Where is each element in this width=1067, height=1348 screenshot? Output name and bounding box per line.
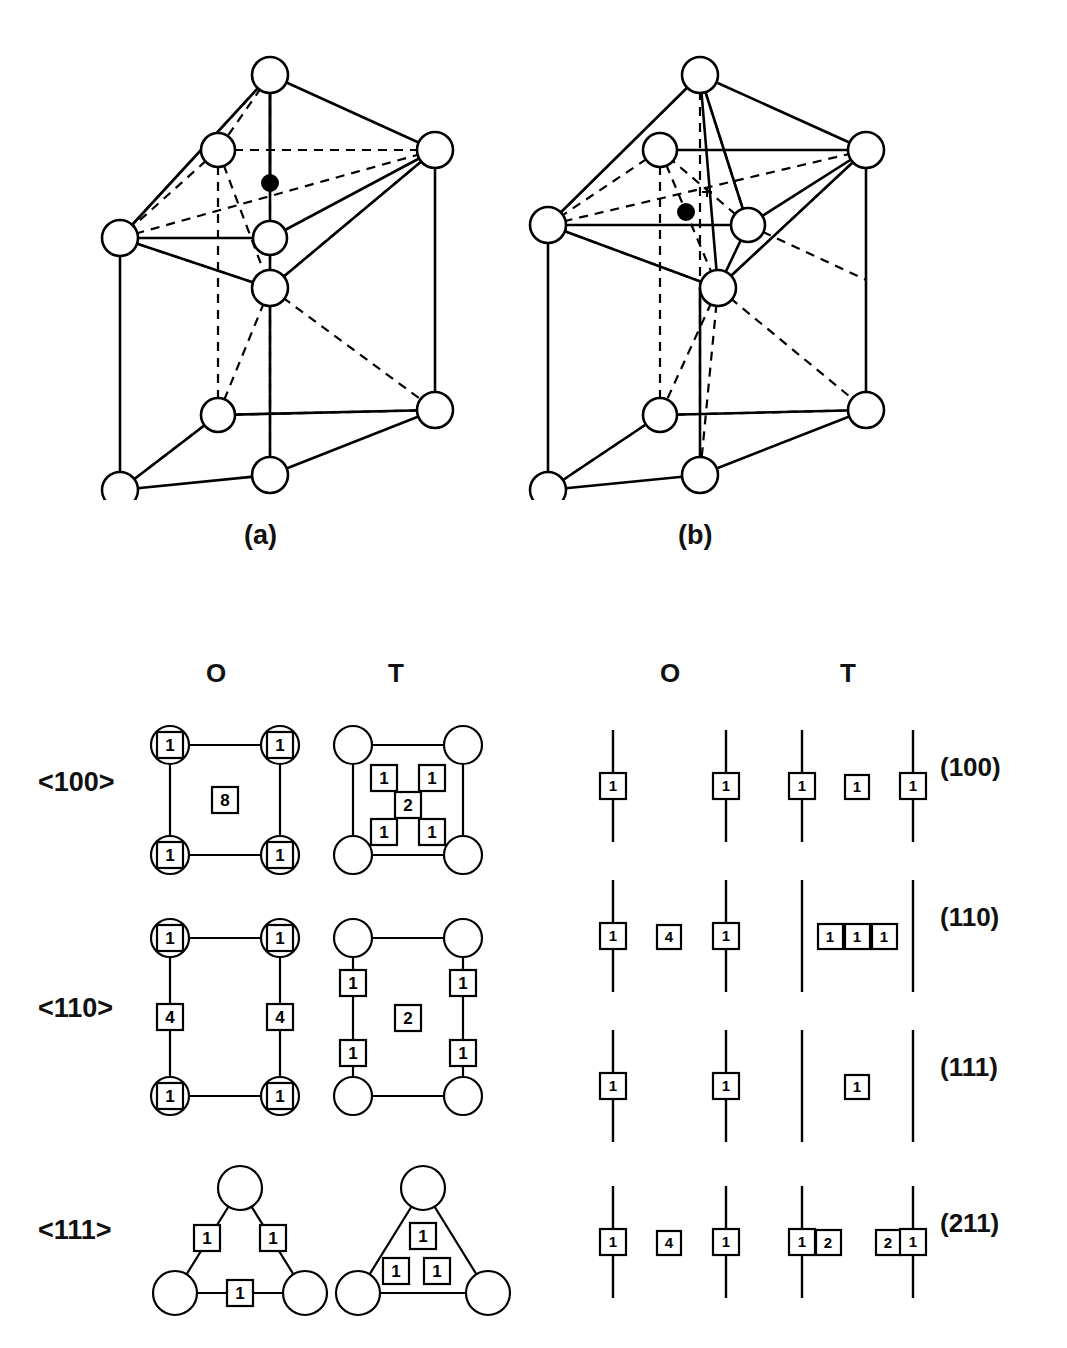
- projection-100-t: 1 1 2 1 1: [323, 715, 493, 885]
- svg-text:1: 1: [609, 1077, 617, 1094]
- svg-text:1: 1: [798, 1233, 806, 1250]
- plane-row-211: 1 4 1 1 2 2 1: [580, 1178, 1000, 1308]
- svg-text:4: 4: [665, 1234, 674, 1251]
- svg-text:1: 1: [235, 1284, 244, 1303]
- svg-text:1: 1: [722, 1233, 730, 1250]
- plane-label-100: (100): [940, 752, 1001, 783]
- svg-text:1: 1: [427, 769, 436, 788]
- svg-text:1: 1: [458, 974, 467, 993]
- svg-text:1: 1: [165, 1087, 174, 1106]
- svg-text:1: 1: [348, 974, 357, 993]
- plane-label-110: (110): [940, 902, 999, 933]
- svg-text:1: 1: [379, 769, 388, 788]
- plane-label-111: (111): [940, 1052, 998, 1083]
- plane-row-111: 1 1 1: [580, 1022, 1000, 1152]
- svg-text:1: 1: [458, 1044, 467, 1063]
- svg-text:1: 1: [275, 929, 284, 948]
- svg-text:1: 1: [798, 777, 806, 794]
- plane-row-100: 1 1 1 1 1: [580, 722, 1000, 852]
- left-table-header-t: T: [388, 658, 404, 689]
- svg-text:2: 2: [824, 1234, 832, 1251]
- left-table-header-o: O: [206, 658, 226, 689]
- svg-text:1: 1: [722, 927, 730, 944]
- svg-text:1: 1: [432, 1262, 441, 1281]
- svg-text:1: 1: [853, 1078, 861, 1095]
- svg-text:1: 1: [275, 736, 284, 755]
- svg-text:2: 2: [403, 1009, 412, 1028]
- svg-text:1: 1: [165, 929, 174, 948]
- svg-text:8: 8: [220, 791, 229, 810]
- svg-text:1: 1: [609, 777, 617, 794]
- svg-text:1: 1: [853, 928, 861, 945]
- direction-label-111: <111>: [38, 1215, 112, 1246]
- panel-b-caption: (b): [678, 520, 712, 551]
- svg-text:4: 4: [275, 1008, 285, 1027]
- projection-111-o: 1 1 1: [150, 1160, 330, 1325]
- svg-text:2: 2: [884, 1234, 892, 1251]
- svg-text:1: 1: [427, 823, 436, 842]
- svg-text:1: 1: [826, 928, 834, 945]
- svg-text:1: 1: [609, 927, 617, 944]
- figure-canvas: (a) (b) O T <100> <110> <111> 1 1 1 1: [0, 0, 1067, 1348]
- svg-text:1: 1: [722, 1077, 730, 1094]
- svg-text:1: 1: [268, 1229, 277, 1248]
- tetrahedral-site-marker: [678, 204, 694, 220]
- svg-text:1: 1: [202, 1229, 211, 1248]
- svg-text:1: 1: [275, 846, 284, 865]
- svg-text:1: 1: [418, 1227, 427, 1246]
- svg-text:1: 1: [379, 823, 388, 842]
- direction-label-100: <100>: [38, 767, 115, 798]
- svg-text:4: 4: [165, 1008, 175, 1027]
- svg-text:1: 1: [275, 1087, 284, 1106]
- octahedral-site-marker: [262, 175, 278, 191]
- projection-100-o: 1 1 1 1 8: [140, 715, 310, 885]
- panel-a-caption: (a): [244, 520, 277, 551]
- plane-row-110: 1 4 1 1 1 1: [580, 872, 1000, 1002]
- lattice-atom: [102, 57, 453, 500]
- lattice-atom: [530, 57, 884, 500]
- svg-text:2: 2: [403, 796, 412, 815]
- svg-text:4: 4: [665, 928, 674, 945]
- svg-text:1: 1: [609, 1233, 617, 1250]
- projection-111-t: 1 1 1: [333, 1160, 513, 1325]
- projection-110-o: 1 1 1 1 4 4: [140, 910, 310, 1125]
- svg-text:1: 1: [909, 777, 917, 794]
- svg-text:1: 1: [909, 1233, 917, 1250]
- plane-label-211: (211): [940, 1208, 999, 1239]
- direction-label-110: <110>: [38, 993, 113, 1024]
- svg-text:1: 1: [722, 777, 730, 794]
- right-table-header-t: T: [840, 658, 856, 689]
- svg-text:1: 1: [880, 928, 888, 945]
- svg-text:1: 1: [348, 1044, 357, 1063]
- svg-text:1: 1: [165, 736, 174, 755]
- svg-text:1: 1: [391, 1262, 400, 1281]
- unit-cell-panel-b: [508, 20, 978, 500]
- svg-text:1: 1: [165, 846, 174, 865]
- svg-text:1: 1: [853, 778, 861, 795]
- right-table-header-o: O: [660, 658, 680, 689]
- projection-110-t: 1 1 1 1 2: [323, 910, 493, 1125]
- unit-cell-panel-a: [40, 20, 500, 500]
